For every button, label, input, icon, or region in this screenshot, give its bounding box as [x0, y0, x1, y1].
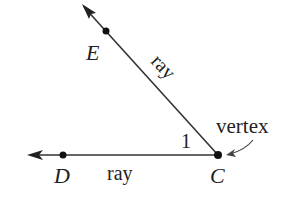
label-ray-lower: ray [107, 162, 133, 185]
angle-diagram: E D C ray ray 1 vertex [0, 0, 299, 205]
point-e [103, 28, 110, 35]
label-c: C [210, 163, 225, 188]
label-ray-upper: ray [146, 50, 180, 84]
point-d [60, 152, 67, 159]
label-d: D [53, 163, 70, 188]
label-vertex: vertex [216, 114, 269, 138]
label-e: E [85, 40, 100, 65]
point-c [214, 151, 222, 159]
label-angle-1: 1 [181, 130, 191, 152]
